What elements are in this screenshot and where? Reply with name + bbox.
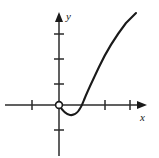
y-axis bbox=[54, 12, 64, 156]
x-axis-arrow-icon bbox=[137, 101, 147, 109]
plotted-curve bbox=[59, 13, 136, 115]
graph-canvas: y x bbox=[0, 0, 159, 158]
x-axis-label: x bbox=[139, 111, 145, 123]
open-circle-marker bbox=[56, 102, 63, 109]
y-axis-arrow-icon bbox=[55, 12, 63, 22]
y-axis-label: y bbox=[65, 10, 71, 22]
coordinate-plane-graph: y x bbox=[0, 0, 159, 158]
x-axis bbox=[5, 100, 147, 110]
